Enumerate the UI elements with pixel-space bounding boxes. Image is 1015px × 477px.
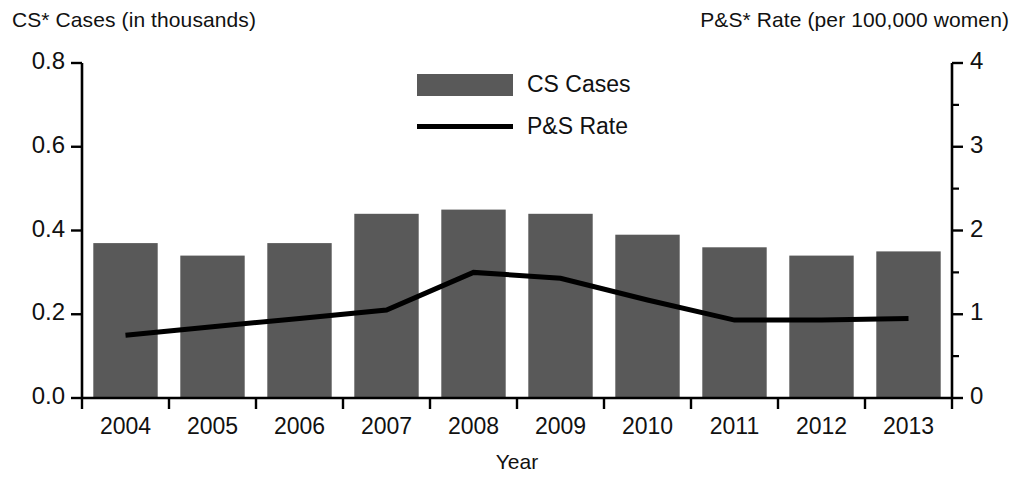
legend-label-cs-cases: CS Cases [527, 71, 631, 98]
legend-bar-swatch [417, 74, 513, 96]
legend-label-ps-rate: P&S Rate [527, 113, 628, 140]
right-tick-2: 2 [970, 215, 983, 243]
x-tick-2008: 2008 [430, 413, 517, 440]
x-tick-2005: 2005 [169, 413, 256, 440]
x-tick-2009: 2009 [517, 413, 604, 440]
left-tick-0.0: 0.0 [0, 382, 65, 410]
x-axis-title: Year [82, 450, 952, 474]
x-tick-2004: 2004 [82, 413, 169, 440]
right-tick-4: 4 [970, 47, 983, 75]
bar-2013 [876, 251, 940, 398]
right-tick-0: 0 [970, 382, 983, 410]
bar-2011 [702, 247, 766, 398]
x-tick-2011: 2011 [691, 413, 778, 440]
left-tick-0.4: 0.4 [0, 215, 65, 243]
legend-line-swatch [417, 124, 513, 129]
right-tick-3: 3 [970, 131, 983, 159]
bar-series [93, 210, 940, 398]
bar-2008 [441, 210, 505, 398]
left-tick-0.2: 0.2 [0, 298, 65, 326]
x-tick-2010: 2010 [604, 413, 691, 440]
left-tick-0.6: 0.6 [0, 131, 65, 159]
bar-2010 [615, 235, 679, 398]
bar-2009 [528, 214, 592, 398]
bar-2007 [354, 214, 418, 398]
x-tick-2012: 2012 [778, 413, 865, 440]
x-tick-2007: 2007 [343, 413, 430, 440]
right-tick-1: 1 [970, 298, 983, 326]
bar-2012 [789, 256, 853, 398]
plot-area [0, 0, 1015, 477]
chart-container: CS* Cases (in thousands) P&S* Rate (per … [0, 0, 1015, 477]
x-tick-2013: 2013 [865, 413, 952, 440]
left-tick-0.8: 0.8 [0, 47, 65, 75]
x-tick-2006: 2006 [256, 413, 343, 440]
bar-2004 [93, 243, 157, 398]
